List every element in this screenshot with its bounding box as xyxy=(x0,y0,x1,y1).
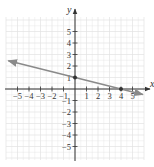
x-tick-label: −3 xyxy=(36,91,45,101)
x-tick-label: 1 xyxy=(84,91,88,101)
y-tick-label: −5 xyxy=(62,142,71,152)
plot-area: −5−4−3−2−112345−5−4−3−2−112345 x y xyxy=(0,0,154,167)
x-tick-label: −5 xyxy=(13,91,22,101)
x-tick-label: 2 xyxy=(96,91,100,101)
coordinate-plane-chart: −5−4−3−2−112345−5−4−3−2−112345 x y xyxy=(0,0,154,167)
x-tick-label: −4 xyxy=(24,91,34,101)
x-tick-label: −2 xyxy=(47,91,56,101)
x-tick-label: 3 xyxy=(107,91,111,101)
intercept-point xyxy=(119,87,123,91)
y-tick-label: 3 xyxy=(67,50,71,60)
y-tick-label: 1 xyxy=(67,73,71,83)
intercept-point xyxy=(73,76,77,80)
y-tick-label: 2 xyxy=(67,61,71,71)
y-tick-label: 5 xyxy=(67,27,71,37)
y-tick-label: −3 xyxy=(62,119,71,129)
y-axis-label: y xyxy=(66,4,72,15)
y-tick-label: −1 xyxy=(62,96,71,106)
y-tick-label: −2 xyxy=(62,107,71,117)
x-axis-label: x xyxy=(149,78,154,89)
y-tick-label: −4 xyxy=(62,130,72,140)
x-tick-label: 4 xyxy=(119,91,124,101)
